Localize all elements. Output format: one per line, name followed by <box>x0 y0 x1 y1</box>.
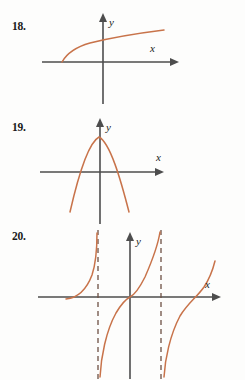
curve-18 <box>62 30 164 62</box>
y-axis-arrow-20 <box>126 232 134 241</box>
y-axis-arrow-18 <box>99 13 107 22</box>
x-axis-label-20: x <box>204 278 210 290</box>
y-axis-label-20: y <box>135 235 141 247</box>
graph-19: x y <box>0 105 245 225</box>
problem-18: 18. x y <box>0 0 245 105</box>
problem-19: 19. x y <box>0 105 245 225</box>
problem-20: 20. x y <box>0 225 245 380</box>
x-axis-arrow-20 <box>212 293 221 301</box>
x-axis-label-19: x <box>155 151 161 163</box>
x-axis-arrow-18 <box>170 58 179 66</box>
x-axis-arrow-19 <box>155 168 164 176</box>
y-axis-arrow-19 <box>96 118 104 127</box>
curve-20-branch-left <box>66 233 97 299</box>
y-axis-label-18: y <box>108 16 114 28</box>
y-axis-label-19: y <box>105 121 111 133</box>
x-axis-label-18: x <box>149 42 155 54</box>
graph-18: x y <box>0 0 245 105</box>
worksheet-page: 18. x y 19. x y <box>0 0 245 380</box>
graph-20: x y <box>0 225 245 380</box>
